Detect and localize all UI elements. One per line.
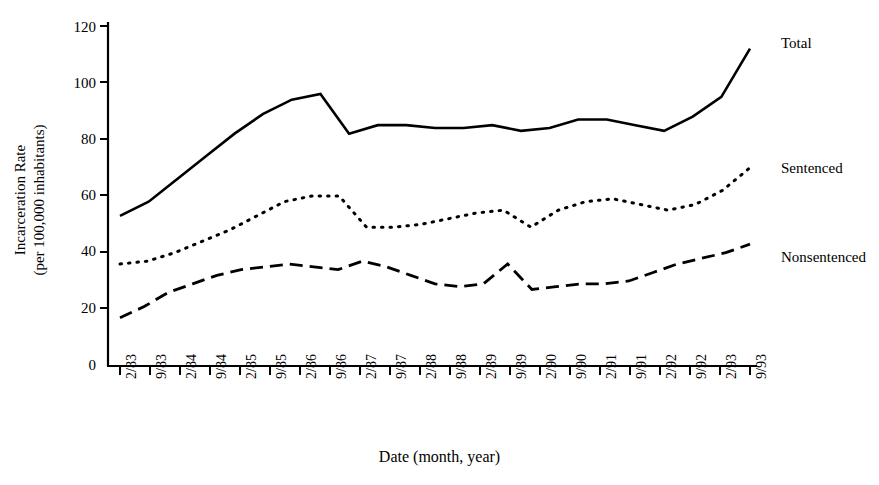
x-tick-label: 9/83: [155, 354, 169, 379]
x-tick-label: 2/84: [185, 354, 199, 379]
x-tick-label: 9/91: [635, 354, 649, 379]
x-tick-label: 2/91: [605, 354, 619, 379]
series-label-total: Total: [781, 36, 812, 51]
chart-figure: Incarceration Rate (per 100,000 inhabita…: [0, 0, 879, 485]
x-axis-title: Date (month, year): [0, 448, 879, 466]
x-tick-label: 2/89: [485, 354, 499, 379]
x-tick-label: 9/85: [275, 354, 289, 379]
x-tick-label: 9/88: [455, 354, 469, 379]
series-line-nonsentenced: [120, 244, 750, 318]
series-label-sentenced: Sentenced: [781, 161, 843, 176]
x-tick-label: 2/85: [245, 354, 259, 379]
x-tick-label: 2/92: [665, 354, 679, 379]
x-tick-label: 2/86: [305, 354, 319, 379]
x-tick-label: 9/93: [755, 354, 769, 379]
series-line-total: [120, 49, 750, 216]
x-axis-title-text: Date (month, year): [379, 448, 500, 465]
x-tick-label: 9/87: [395, 354, 409, 379]
plot-area: [0, 0, 879, 485]
series-line-sentenced: [120, 168, 750, 264]
series-label-nonsentenced: Nonsentenced: [781, 250, 866, 265]
x-tick-label: 9/92: [695, 354, 709, 379]
x-tick-label: 9/90: [575, 354, 589, 379]
x-tick-label: 2/83: [125, 354, 139, 379]
y-axis-ticks: [100, 26, 108, 308]
x-tick-label: 9/84: [215, 354, 229, 379]
x-tick-label: 2/88: [425, 354, 439, 379]
x-tick-label: 2/87: [365, 354, 379, 379]
x-tick-label: 9/86: [335, 354, 349, 379]
x-tick-label: 2/90: [545, 354, 559, 379]
x-tick-label: 2/93: [725, 354, 739, 379]
x-tick-label: 9/89: [515, 354, 529, 379]
